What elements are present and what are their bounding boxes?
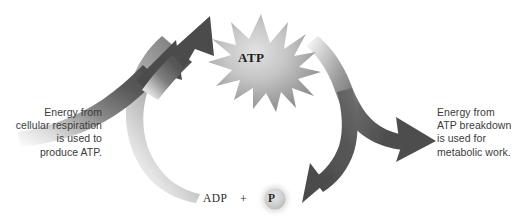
plus-sign-label: +: [240, 192, 247, 207]
caption-energy-out: Energy from ATP breakdown is used for me…: [437, 106, 517, 159]
atp-to-adp-arrow: [302, 88, 358, 203]
atp-cycle-figure: Energy from cellular respiration is used…: [0, 0, 518, 220]
atp-label: ATP: [238, 50, 265, 66]
energy-out-arrow: [306, 36, 436, 162]
caption-energy-in: Energy from cellular respiration is used…: [6, 106, 102, 159]
phosphate-label: P: [268, 192, 275, 204]
adp-label: ADP: [203, 192, 227, 204]
